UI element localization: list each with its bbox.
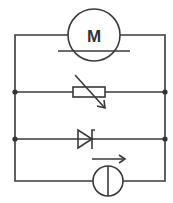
- motor-symbol: M: [58, 9, 130, 61]
- motor-label: M: [87, 27, 101, 46]
- wires: [15, 35, 165, 181]
- current-source-symbol: [92, 155, 125, 196]
- resistor-body: [73, 87, 105, 97]
- variable-arrow-shaft: [75, 75, 104, 107]
- junction-dot: [12, 89, 17, 94]
- junction-dot: [162, 136, 167, 141]
- variable-resistor-symbol: [73, 75, 105, 108]
- right-wire: [120, 35, 165, 181]
- junction-dot: [162, 89, 167, 94]
- junction-dot: [12, 136, 17, 141]
- circuit-diagram: M: [0, 0, 173, 203]
